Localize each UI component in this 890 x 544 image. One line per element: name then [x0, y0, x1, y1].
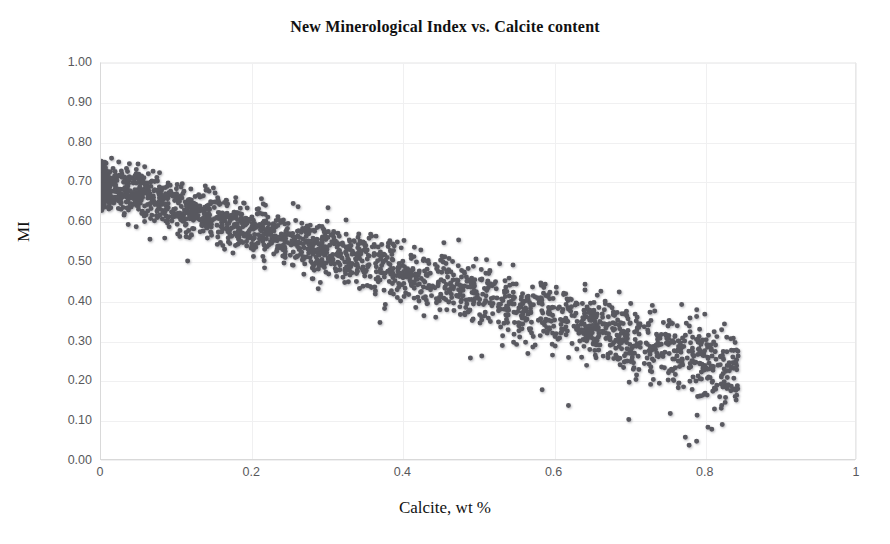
scatter-points-layer	[101, 63, 855, 459]
y-tick-label: 0.40	[34, 295, 92, 308]
x-tick-label: 0.4	[394, 466, 411, 479]
chart-title: New Minerological Index vs. Calcite cont…	[0, 18, 890, 36]
y-tick-label: 0.60	[34, 215, 92, 228]
x-tick-label: 0.6	[545, 466, 562, 479]
y-tick-label: 0.10	[34, 414, 92, 427]
scatter-points-svg	[101, 63, 855, 459]
y-tick-label: 0.90	[34, 96, 92, 109]
scatter-chart: New Minerological Index vs. Calcite cont…	[0, 0, 890, 544]
x-axis-tick-labels: 00.20.40.60.81	[100, 466, 856, 486]
plot-area	[100, 62, 856, 460]
y-tick-label: 0.00	[34, 454, 92, 467]
y-tick-label: 0.80	[34, 136, 92, 149]
x-axis-label: Calcite, wt %	[0, 498, 890, 518]
y-axis-tick-labels: 0.000.100.200.300.400.500.600.700.800.90…	[30, 62, 92, 460]
x-tick-label: 0	[97, 466, 104, 479]
y-tick-label: 1.00	[34, 56, 92, 69]
y-tick-label: 0.50	[34, 255, 92, 268]
y-tick-label: 0.70	[34, 175, 92, 188]
x-tick-label: 0.2	[242, 466, 259, 479]
x-tick-label: 0.8	[696, 466, 713, 479]
y-tick-label: 0.30	[34, 335, 92, 348]
gridline	[101, 460, 855, 461]
x-tick-label: 1	[853, 466, 860, 479]
gridline	[856, 63, 857, 459]
y-tick-label: 0.20	[34, 374, 92, 387]
y-axis-label: MI	[14, 221, 34, 242]
